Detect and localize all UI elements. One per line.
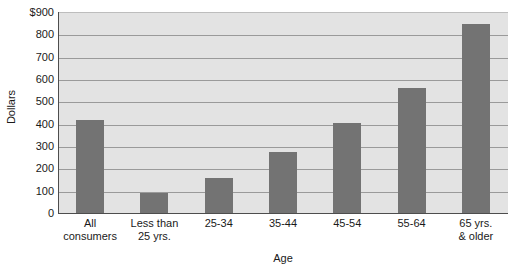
y-axis-tick-labels: 0100200300400500600700800$900 xyxy=(22,12,58,213)
y-axis-tick-label: 0 xyxy=(48,207,54,219)
bar[interactable] xyxy=(76,120,104,213)
bar[interactable] xyxy=(462,24,490,213)
x-axis-tick-label: 25-34 xyxy=(187,217,251,230)
x-axis-tick-labels: AllconsumersLess than25 yrs.25-3435-4445… xyxy=(58,217,508,249)
y-axis-tick-label: 800 xyxy=(36,28,54,40)
x-tick-line-1: 55-64 xyxy=(397,217,425,229)
bar-slot xyxy=(444,13,508,213)
y-axis-tick-label: 100 xyxy=(36,185,54,197)
bar-slot xyxy=(187,13,251,213)
y-axis-tick-label: $900 xyxy=(30,6,54,18)
y-axis-title: Dollars xyxy=(0,0,22,213)
x-tick-line-1: 65 yrs. xyxy=(459,217,492,229)
x-axis-tick-label: Allconsumers xyxy=(58,217,122,243)
bar[interactable] xyxy=(205,178,233,213)
bar[interactable] xyxy=(140,193,168,213)
x-axis-tick-label: 35-44 xyxy=(251,217,315,230)
bar-slot xyxy=(122,13,186,213)
x-tick-line-1: Less than xyxy=(131,217,179,229)
x-tick-line-1: All xyxy=(84,217,96,229)
y-axis-tick-label: 700 xyxy=(36,51,54,63)
bar-slot xyxy=(315,13,379,213)
x-axis-title: Age xyxy=(58,252,508,264)
bar[interactable] xyxy=(333,123,361,213)
x-axis-line xyxy=(58,213,508,214)
y-axis-tick-label: 200 xyxy=(36,162,54,174)
x-tick-line-2: consumers xyxy=(58,230,122,243)
y-axis-tick-label: 600 xyxy=(36,73,54,85)
x-tick-line-1: 45-54 xyxy=(333,217,361,229)
y-axis-tick-label: 300 xyxy=(36,140,54,152)
bar-slot xyxy=(379,13,443,213)
bar-chart-figure: Dollars 0100200300400500600700800$900 Al… xyxy=(0,0,516,272)
bar-slot xyxy=(58,13,122,213)
plot-area xyxy=(58,12,508,213)
x-tick-line-1: 25-34 xyxy=(205,217,233,229)
bar-series xyxy=(58,13,508,213)
x-tick-line-2: & older xyxy=(444,230,508,243)
bar[interactable] xyxy=(269,152,297,213)
x-axis-tick-label: 65 yrs.& older xyxy=(444,217,508,243)
x-axis-tick-label: Less than25 yrs. xyxy=(122,217,186,243)
y-axis-title-text: Dollars xyxy=(5,89,17,123)
x-tick-line-2: 25 yrs. xyxy=(122,230,186,243)
y-axis-tick-label: 500 xyxy=(36,95,54,107)
x-axis-tick-label: 45-54 xyxy=(315,217,379,230)
x-tick-line-1: 35-44 xyxy=(269,217,297,229)
x-axis-tick-label: 55-64 xyxy=(379,217,443,230)
bar[interactable] xyxy=(398,88,426,214)
y-axis-tick-label: 400 xyxy=(36,118,54,130)
y-axis-line xyxy=(58,12,59,214)
bar-slot xyxy=(251,13,315,213)
